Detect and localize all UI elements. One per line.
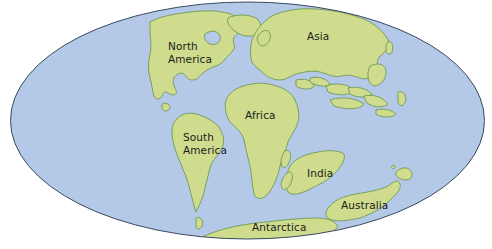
island-small xyxy=(392,165,396,169)
world-map xyxy=(0,0,492,249)
label-south-america: South America xyxy=(183,131,227,157)
label-india: India xyxy=(307,167,333,180)
label-south-america-line1: South xyxy=(183,131,227,144)
label-north-america-line1: North xyxy=(168,40,212,53)
label-asia: Asia xyxy=(307,30,329,43)
japan xyxy=(386,42,393,55)
central-america-island xyxy=(162,103,170,111)
label-africa: Africa xyxy=(245,109,276,122)
label-australia: Australia xyxy=(341,199,388,212)
label-north-america-line2: America xyxy=(168,53,212,66)
label-north-america: North America xyxy=(168,40,212,66)
label-antarctica: Antarctica xyxy=(252,221,307,234)
label-south-america-line2: America xyxy=(183,144,227,157)
antarctic-peninsula xyxy=(196,217,203,229)
